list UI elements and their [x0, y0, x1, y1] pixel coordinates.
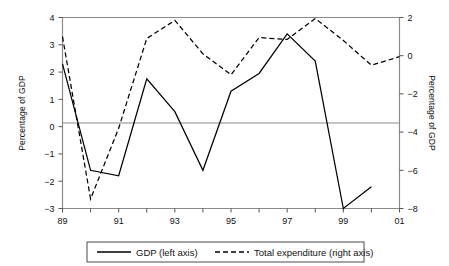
right-tick-label: −6 [408, 166, 418, 176]
left-tick-label: 0 [49, 122, 54, 132]
right-tick-label: 0 [408, 51, 413, 61]
right-axis-ticks: −8−6−4−202 [400, 13, 418, 214]
x-axis-ticks: 89919395979901 [57, 209, 404, 226]
series-line-total-expenditure [63, 18, 400, 198]
right-tick-label: −4 [408, 127, 418, 137]
left-tick-label: 4 [49, 13, 54, 23]
right-tick-label: 2 [408, 13, 413, 23]
left-tick-label: −1 [44, 149, 54, 159]
left-tick-label: 2 [49, 67, 54, 77]
left-axis-ticks: −3−2−101234 [44, 13, 62, 214]
left-tick-label: 3 [49, 40, 54, 50]
right-axis-title: Percentage of GDP [427, 75, 437, 151]
right-tick-label: −8 [408, 204, 418, 214]
x-tick-label: 91 [114, 216, 124, 226]
x-tick-label: 99 [338, 216, 348, 226]
x-tick-label: 01 [394, 216, 404, 226]
x-tick-label: 95 [226, 216, 236, 226]
series-line-gdp [63, 34, 372, 209]
left-tick-label: −3 [44, 204, 54, 214]
left-tick-label: −2 [44, 177, 54, 187]
x-tick-label: 93 [170, 216, 180, 226]
legend-label-total-expenditure: Total expenditure (right axis) [254, 247, 373, 258]
right-tick-label: −2 [408, 89, 418, 99]
legend-label-gdp: GDP (left axis) [136, 247, 198, 258]
gdp-expenditure-line-chart: −3−2−101234 −8−6−4−202 89919395979901 Pe… [0, 0, 449, 266]
chart-figure: −3−2−101234 −8−6−4−202 89919395979901 Pe… [0, 0, 449, 266]
left-tick-label: 1 [49, 95, 54, 105]
left-axis-title: Percentage of GDP [17, 75, 27, 151]
x-tick-label: 97 [282, 216, 292, 226]
x-tick-label: 89 [57, 216, 67, 226]
chart-legend: GDP (left axis) Total expenditure (right… [87, 242, 373, 262]
